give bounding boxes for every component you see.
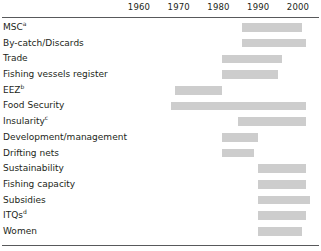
row-label: Fishing capacity (3, 178, 75, 191)
chart-row: MSCa (0, 20, 321, 36)
row-label: EEZb (3, 84, 24, 97)
row-label: Food Security (3, 99, 64, 112)
timeline-bar (258, 211, 306, 220)
timeline-bar (222, 133, 258, 142)
timeline-bar (258, 196, 310, 205)
chart-row: ITQsd (0, 208, 321, 224)
axis-rule-bottom (2, 245, 319, 246)
row-label-superscript: c (45, 114, 48, 121)
chart-row: By-catch/Discards (0, 36, 321, 52)
row-label: MSCa (3, 21, 26, 34)
row-label: Fishing vessels register (3, 68, 108, 81)
timeline-bar (238, 117, 306, 126)
timeline-bar (222, 55, 282, 64)
row-label: Drifting nets (3, 147, 59, 160)
x-tick-1960: 1960 (128, 2, 150, 12)
chart-rows: MSCaBy-catch/DiscardsTradeFishing vessel… (0, 20, 321, 240)
chart-row: Women (0, 224, 321, 240)
chart-row: Development/management (0, 130, 321, 146)
x-tick-1980: 1980 (207, 2, 229, 12)
row-label-superscript: d (23, 208, 27, 215)
x-axis-tick-labels: 19601970198019902000 (0, 2, 321, 16)
timeline-chart: 19601970198019902000 MSCaBy-catch/Discar… (0, 0, 321, 251)
row-label: By-catch/Discards (3, 37, 84, 50)
row-label: Women (3, 225, 37, 238)
chart-row: Insularityc (0, 114, 321, 130)
axis-rule-top (2, 17, 319, 18)
timeline-bar (175, 86, 223, 95)
row-label-superscript: a (23, 20, 27, 27)
x-tick-1970: 1970 (168, 2, 190, 12)
chart-row: Food Security (0, 98, 321, 114)
timeline-bar (258, 164, 306, 173)
chart-row: EEZb (0, 83, 321, 99)
x-tick-2000: 2000 (287, 2, 309, 12)
chart-row: Subsidies (0, 193, 321, 209)
row-label: Development/management (3, 131, 127, 144)
timeline-bar (171, 102, 306, 111)
row-label: Subsidies (3, 194, 46, 207)
row-label: Sustainability (3, 162, 64, 175)
row-label: Insularityc (3, 115, 48, 128)
timeline-bar (258, 180, 306, 189)
timeline-bar (242, 23, 302, 32)
row-label: Trade (3, 52, 28, 65)
timeline-bar (222, 70, 278, 79)
timeline-bar (258, 227, 302, 236)
chart-row: Trade (0, 51, 321, 67)
chart-row: Sustainability (0, 161, 321, 177)
row-label: ITQsd (3, 209, 27, 222)
timeline-bar (222, 149, 254, 158)
row-label-superscript: b (21, 83, 25, 90)
chart-row: Drifting nets (0, 146, 321, 162)
chart-row: Fishing vessels register (0, 67, 321, 83)
x-tick-1990: 1990 (247, 2, 269, 12)
chart-row: Fishing capacity (0, 177, 321, 193)
timeline-bar (242, 39, 306, 48)
